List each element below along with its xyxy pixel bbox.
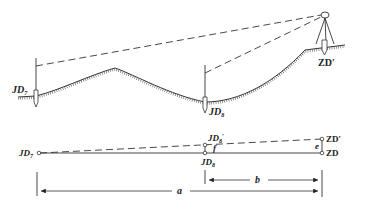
a-dimension-label: a [177,185,182,196]
sight-lines [36,15,321,73]
e-label: e [315,141,319,151]
jd8-label-plan: JD8 [200,157,215,168]
b-dimension-label: b [255,174,260,185]
jd7-label-plan: JD7 [18,148,34,159]
zd-prime-label-top: ZD′ [318,57,335,68]
jd8-label-top: JD8 [208,106,224,118]
zd-prime-label-plan: ZD′ [326,134,341,144]
surveying-diagram: JD7 JD8 ZD′ JD7 JD8 JD8′ f e ZD′ ZD [0,0,366,215]
zd-label-plan: ZD [326,148,339,158]
jd7-label-top: JD7 [11,84,28,96]
plan-lines [40,139,322,153]
plan-points [37,137,324,155]
terrain-profile [18,45,345,104]
